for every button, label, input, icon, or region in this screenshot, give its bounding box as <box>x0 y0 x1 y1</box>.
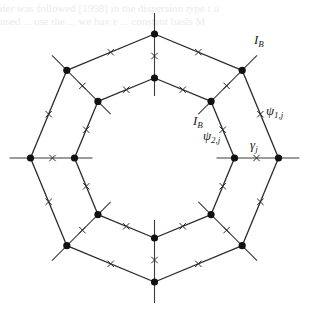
outer-vertex-node <box>27 154 34 161</box>
outer-edge-cross <box>195 49 201 55</box>
inner-vertex-node <box>94 98 101 105</box>
outer-edge-cross <box>107 261 113 267</box>
inner-vertex-node <box>207 211 214 218</box>
radial-edge-cross <box>223 227 229 233</box>
outer-vertex-node <box>63 242 70 249</box>
outer-edge-cross <box>257 111 263 117</box>
inner-edge-cross <box>83 183 89 189</box>
inner-vertex-node <box>231 154 238 161</box>
inner-edge-cross <box>220 183 226 189</box>
outer-edge-cross <box>257 199 263 205</box>
label-ib-inner: IB <box>192 113 203 130</box>
inner-edge-cross <box>180 223 186 229</box>
inner-edge-cross <box>123 87 129 93</box>
outer-vertex-node <box>275 154 282 161</box>
inner-edge-cross <box>180 87 186 93</box>
outer-edge-cross <box>195 261 201 267</box>
inner-vertex-node <box>94 211 101 218</box>
label-psi-1j: ψ1,j <box>266 103 284 120</box>
radial-edge-cross <box>223 83 229 89</box>
inner-vertex-node <box>151 234 158 241</box>
outer-edge-cross <box>45 199 51 205</box>
inner-vertex-node <box>207 98 214 105</box>
diagram-labels: IB IB ψ1,j ψ2,j γj <box>192 32 284 154</box>
outer-vertex-node <box>151 30 158 37</box>
octagon-ring-diagram: IB IB ψ1,j ψ2,j γj <box>0 0 309 315</box>
outer-vertex-node <box>151 278 158 285</box>
outer-vertex-node <box>239 242 246 249</box>
outer-vertex-node <box>239 67 246 74</box>
inner-edge-cross <box>220 127 226 133</box>
outer-edge-cross <box>107 49 113 55</box>
radial-edge-cross <box>79 227 85 233</box>
inner-vertex-node <box>71 154 78 161</box>
label-gamma-j: γj <box>250 137 258 154</box>
inner-vertex-node <box>151 74 158 81</box>
label-psi-2j: ψ2,j <box>203 128 221 145</box>
inner-edge-cross <box>123 223 129 229</box>
radial-edge-cross <box>79 83 85 89</box>
inner-edge-cross <box>83 127 89 133</box>
label-ib-outer: IB <box>253 32 264 49</box>
outer-vertex-node <box>63 67 70 74</box>
outer-edge-cross <box>45 111 51 117</box>
